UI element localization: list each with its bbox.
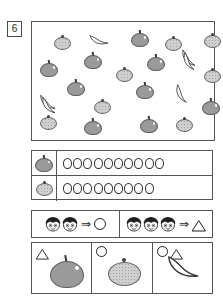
tally-circle bbox=[145, 158, 154, 169]
tally-circle bbox=[104, 183, 113, 194]
legend-bar: ⇒⇒ bbox=[31, 210, 213, 238]
circle-icon bbox=[96, 246, 107, 257]
tally-circle bbox=[83, 158, 92, 169]
triangle-icon bbox=[36, 246, 49, 257]
banana-icon bbox=[169, 82, 196, 107]
apple-icon bbox=[202, 98, 220, 115]
apple-icon bbox=[50, 255, 84, 288]
tally-circle bbox=[104, 158, 113, 169]
orange-icon bbox=[108, 258, 141, 286]
answer-cell[interactable] bbox=[32, 243, 92, 293]
orange-icon bbox=[165, 36, 182, 51]
tally-circle bbox=[73, 183, 82, 194]
child-face-icon bbox=[126, 216, 142, 232]
apple-icon bbox=[40, 60, 58, 77]
tally-table bbox=[31, 150, 213, 200]
tally-circle bbox=[134, 158, 143, 169]
orange-icon bbox=[54, 35, 71, 50]
worksheet-page: 6 ⇒⇒ bbox=[0, 0, 223, 305]
tally-circle bbox=[63, 183, 72, 194]
orange-icon bbox=[176, 117, 193, 132]
apple-icon bbox=[147, 54, 165, 71]
child-face-icon bbox=[160, 216, 176, 232]
tally-circle bbox=[124, 183, 133, 194]
apple-icon bbox=[136, 82, 154, 99]
legend-cell: ⇒ bbox=[120, 211, 212, 237]
apple-icon bbox=[67, 79, 85, 96]
orange-icon bbox=[94, 99, 111, 114]
orange-icon bbox=[204, 68, 221, 83]
banana-icon bbox=[165, 251, 205, 291]
tally-row bbox=[32, 151, 212, 176]
answer-symbols bbox=[36, 246, 49, 257]
orange-icon bbox=[36, 181, 53, 196]
tally-circle bbox=[124, 158, 133, 169]
arrow-icon: ⇒ bbox=[81, 218, 91, 230]
problem-number-label: 6 bbox=[12, 24, 18, 34]
tally-key-cell bbox=[32, 176, 57, 201]
tally-marks bbox=[57, 183, 212, 194]
answer-row bbox=[31, 242, 213, 294]
answer-cell[interactable] bbox=[92, 243, 152, 293]
orange-icon bbox=[204, 33, 221, 48]
child-face-icon bbox=[143, 216, 159, 232]
circle-icon bbox=[94, 218, 106, 230]
answer-cell[interactable] bbox=[153, 243, 212, 293]
tally-row bbox=[32, 176, 212, 201]
apple-icon bbox=[131, 30, 149, 47]
tally-circle bbox=[145, 183, 154, 194]
orange-icon bbox=[40, 115, 57, 130]
tally-circle bbox=[73, 158, 82, 169]
tally-circle bbox=[134, 183, 143, 194]
tally-circle bbox=[114, 183, 123, 194]
orange-icon bbox=[116, 67, 133, 82]
tally-marks bbox=[57, 158, 212, 169]
legend-cell: ⇒ bbox=[32, 211, 120, 237]
apple-icon bbox=[140, 116, 158, 133]
tally-key-cell bbox=[32, 151, 57, 175]
answer-symbols bbox=[96, 246, 107, 257]
tally-circle bbox=[83, 183, 92, 194]
tally-circle bbox=[155, 158, 164, 169]
apple-icon bbox=[84, 52, 102, 69]
tally-circle bbox=[94, 158, 103, 169]
tally-circle bbox=[94, 183, 103, 194]
apple-icon bbox=[35, 155, 53, 172]
apple-icon bbox=[84, 118, 102, 135]
triangle-icon bbox=[192, 218, 206, 230]
banana-icon bbox=[177, 47, 203, 69]
child-face-icon bbox=[62, 216, 78, 232]
tally-circle bbox=[114, 158, 123, 169]
fruit-scatter-panel bbox=[31, 21, 215, 141]
banana-icon bbox=[88, 29, 113, 49]
problem-number-box: 6 bbox=[7, 21, 22, 37]
banana-icon bbox=[37, 93, 61, 112]
tally-circle bbox=[63, 158, 72, 169]
arrow-icon: ⇒ bbox=[179, 218, 189, 230]
child-face-icon bbox=[45, 216, 61, 232]
